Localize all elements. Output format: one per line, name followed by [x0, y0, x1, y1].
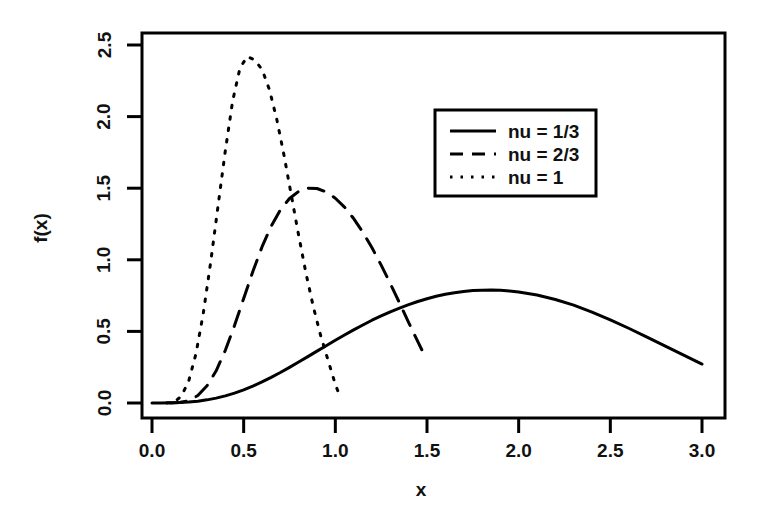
figure-background	[0, 0, 764, 518]
y-tick-label: 2.5	[94, 31, 115, 58]
x-tick-label: 1.5	[414, 440, 441, 461]
x-tick-label: 0.5	[230, 440, 257, 461]
x-tick-label: 2.5	[597, 440, 624, 461]
x-axis-title: x	[416, 479, 427, 500]
legend-label-3: nu = 1	[508, 167, 564, 188]
legend-label-2: nu = 2/3	[508, 144, 579, 165]
x-tick-label: 3.0	[689, 440, 715, 461]
legend-label-1: nu = 1/3	[508, 121, 579, 142]
legend: nu = 1/3nu = 2/3nu = 1	[435, 110, 596, 196]
x-tick-label: 0.0	[139, 440, 165, 461]
x-tick-label: 1.0	[322, 440, 348, 461]
chart-figure: 0.00.51.01.52.02.53.0 0.00.51.01.52.02.5…	[0, 0, 764, 518]
density-plot: 0.00.51.01.52.02.53.0 0.00.51.01.52.02.5…	[0, 0, 764, 518]
y-tick-label: 0.0	[94, 390, 115, 416]
x-tick-label: 2.0	[505, 440, 531, 461]
y-tick-label: 0.5	[94, 318, 115, 345]
y-tick-label: 1.0	[94, 247, 115, 273]
y-axis-title: f(x)	[30, 213, 51, 243]
y-tick-label: 1.5	[94, 175, 115, 202]
y-tick-label: 2.0	[94, 103, 115, 129]
